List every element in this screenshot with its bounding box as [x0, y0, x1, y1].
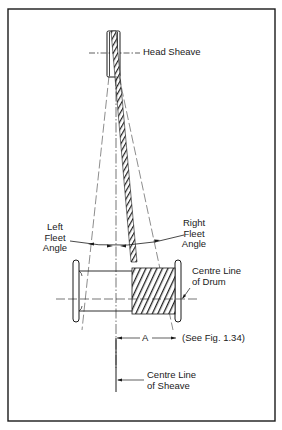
wound-rope	[132, 268, 175, 314]
fleet-angle-arc	[70, 235, 184, 245]
wire-rope	[111, 31, 137, 262]
figure-frame	[8, 9, 275, 421]
label-centre-line-drum: Centre Line of Drum	[192, 266, 241, 287]
dim-a-arrow-left	[117, 337, 122, 340]
label-head-sheave: Head Sheave	[143, 47, 201, 58]
drum	[73, 260, 181, 322]
dim-a-arrow-right	[171, 337, 176, 340]
label-left-fleet-angle: Left Fleet Angle	[39, 222, 71, 254]
sheave-leader-arrow	[117, 379, 122, 382]
left-fleet-line	[82, 76, 109, 330]
label-centre-line-sheave: Centre Line of Sheave	[147, 370, 196, 391]
diagram-drawing	[0, 0, 282, 430]
label-dimension-a: A	[142, 333, 148, 344]
label-right-fleet-angle: Right Fleet Angle	[177, 218, 211, 250]
label-see-fig: (See Fig. 1.34)	[182, 333, 245, 344]
fleet-angle-diagram: Head Sheave Left Fleet Angle Right Fleet…	[0, 0, 282, 430]
